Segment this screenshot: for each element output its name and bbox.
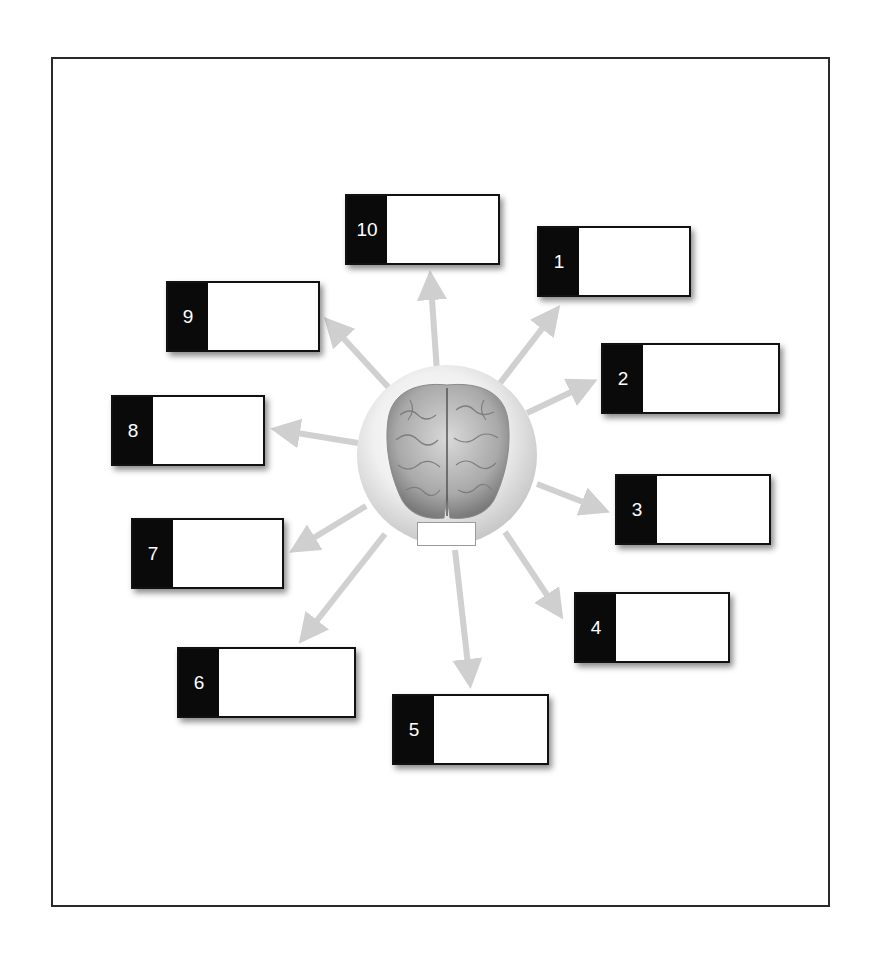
label-box-10[interactable]: 10 [345,194,500,265]
arrow-6 [308,534,385,632]
box-number: 2 [603,345,643,412]
arrow-1 [497,317,551,387]
box-number: 1 [539,228,579,295]
answer-field[interactable] [173,520,282,587]
answer-field[interactable] [616,594,728,661]
arrow-8 [285,431,358,443]
answer-field[interactable] [434,696,547,763]
arrow-7 [302,506,366,545]
arrow-4 [505,532,555,607]
label-box-2[interactable]: 2 [601,343,780,414]
box-number: 6 [179,649,219,716]
answer-field[interactable] [153,397,263,464]
box-number: 3 [617,476,657,543]
box-number: 4 [576,594,616,661]
label-box-7[interactable]: 7 [131,518,284,589]
answer-field[interactable] [657,476,769,543]
box-number: 7 [133,520,173,587]
arrow-9 [334,328,390,389]
box-number: 9 [168,283,208,350]
arrow-3 [537,484,596,507]
arrow-10 [431,285,437,372]
label-box-5[interactable]: 5 [392,694,549,765]
answer-field[interactable] [643,345,778,412]
label-box-4[interactable]: 4 [574,592,730,663]
brain-label-field[interactable] [417,522,476,546]
answer-field[interactable] [579,228,689,295]
arrow-2 [527,386,584,413]
answer-field[interactable] [387,196,498,263]
box-number: 5 [394,696,434,763]
label-box-3[interactable]: 3 [615,474,771,545]
box-number: 8 [113,397,153,464]
brain-icon [387,384,509,518]
box-number: 10 [347,196,387,263]
label-box-9[interactable]: 9 [166,281,320,352]
label-box-1[interactable]: 1 [537,226,691,297]
label-box-8[interactable]: 8 [111,395,265,466]
answer-field[interactable] [219,649,354,716]
label-box-6[interactable]: 6 [177,647,356,718]
arrow-5 [455,550,469,674]
answer-field[interactable] [208,283,318,350]
